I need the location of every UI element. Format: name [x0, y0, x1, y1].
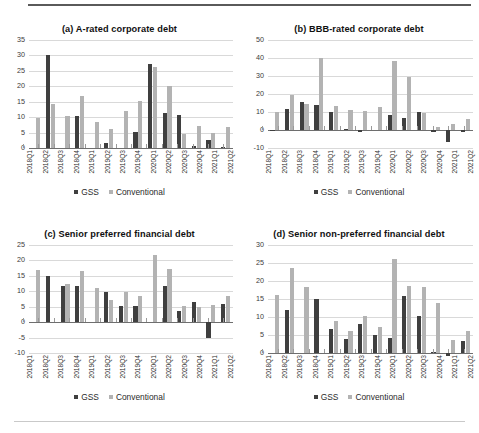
bar-gss[interactable] — [446, 130, 450, 142]
bar-conventional[interactable] — [138, 101, 142, 148]
x-tick-mark — [417, 126, 433, 130]
bar-group — [189, 245, 204, 353]
bar-gss[interactable] — [148, 64, 152, 148]
bar-gss[interactable] — [358, 130, 362, 132]
bar-gss[interactable] — [402, 296, 406, 353]
bar-gss[interactable] — [314, 299, 318, 353]
bar-conventional[interactable] — [290, 268, 294, 353]
bar-conventional[interactable] — [407, 77, 411, 130]
bar-gss[interactable] — [46, 276, 50, 322]
bar-conventional[interactable] — [80, 271, 84, 322]
bar-conventional[interactable] — [153, 255, 157, 323]
legend-item-gss[interactable]: GSS — [314, 393, 339, 401]
x-axis-label: 2020Q2 — [402, 355, 418, 378]
legend-swatch-gss-icon — [74, 190, 78, 194]
x-axis-label: 2019Q2 — [100, 150, 115, 173]
x-axis-label: 2018Q1 — [23, 355, 38, 378]
legend-label: Conventional — [116, 188, 165, 196]
x-axis-label-text: 2019Q3 — [120, 150, 127, 173]
bar-gss[interactable] — [417, 316, 421, 353]
bar-group — [385, 245, 400, 353]
x-axis-label: 2020Q3 — [417, 150, 433, 173]
x-tick-mark — [448, 349, 464, 353]
x-axis-label-text: 2019Q4 — [135, 150, 142, 173]
bar-conventional[interactable] — [36, 270, 40, 322]
x-axis-label-text: 2020Q2 — [166, 355, 173, 378]
bar-conventional[interactable] — [422, 287, 426, 353]
x-axis-label: 2020Q1 — [146, 150, 161, 173]
x-axis-label-text: 2019Q2 — [105, 355, 112, 378]
bar-conventional[interactable] — [319, 58, 323, 130]
y-tick-label: 5 — [21, 129, 25, 136]
panel-a-tickmarks — [23, 144, 239, 148]
x-axis-label-text: 2021Q1 — [212, 355, 219, 378]
bar-conventional[interactable] — [407, 286, 411, 353]
x-tick-mark — [386, 349, 402, 353]
x-axis-label: 2018Q1 — [262, 150, 278, 173]
bar-conventional[interactable] — [153, 67, 157, 148]
legend-swatch-conv-icon — [348, 395, 352, 399]
bar-gss[interactable] — [46, 55, 50, 148]
legend-swatch-gss-icon — [314, 190, 318, 194]
x-axis-label-text: 2021Q2 — [468, 355, 475, 378]
bar-conventional[interactable] — [436, 303, 440, 353]
panel-c: (c) Senior preferred financial debt -10-… — [0, 217, 239, 422]
bar-conventional[interactable] — [363, 316, 367, 353]
x-axis-label-text: 2018Q2 — [282, 355, 289, 378]
x-tick-mark — [293, 349, 309, 353]
bar-conventional[interactable] — [392, 259, 396, 353]
x-tick-mark — [23, 318, 38, 322]
bar-gss[interactable] — [206, 322, 210, 337]
bar-group — [370, 40, 385, 148]
legend-item-gss[interactable]: GSS — [74, 393, 99, 401]
legend-item-conventional[interactable]: Conventional — [109, 393, 165, 401]
bar-gss[interactable] — [270, 130, 274, 131]
legend-item-conventional[interactable]: Conventional — [348, 393, 404, 401]
bar-gss[interactable] — [163, 286, 167, 322]
bar-conventional[interactable] — [80, 96, 84, 148]
bar-conventional[interactable] — [124, 111, 128, 148]
x-axis-label: 2018Q1 — [262, 355, 278, 378]
x-axis-label-text: 2018Q4 — [313, 150, 320, 173]
bar-gss[interactable] — [163, 113, 167, 148]
bar-conventional[interactable] — [290, 95, 294, 130]
bar-gss[interactable] — [431, 130, 435, 132]
bar-group — [73, 40, 88, 148]
bar-gss[interactable] — [75, 286, 79, 322]
x-axis-label: 2020Q1 — [386, 355, 402, 378]
bar-conventional[interactable] — [51, 104, 55, 148]
bar-group — [444, 40, 459, 148]
bar-conventional[interactable] — [95, 288, 99, 323]
bar-conventional[interactable] — [275, 295, 279, 353]
bar-conventional[interactable] — [167, 269, 171, 322]
x-tick-mark — [309, 349, 325, 353]
bar-group — [312, 40, 327, 148]
bar-conventional[interactable] — [304, 287, 308, 353]
bar-gss[interactable] — [285, 310, 289, 353]
x-axis-label: 2018Q1 — [23, 150, 38, 173]
x-axis-label: 2019Q1 — [324, 150, 340, 173]
legend-item-gss[interactable]: GSS — [314, 188, 339, 196]
panel-b: (b) BBB-rated corporate debt -1001020304… — [239, 12, 479, 217]
legend-item-conventional[interactable]: Conventional — [109, 188, 165, 196]
bar-conventional[interactable] — [167, 86, 171, 148]
legend-item-gss[interactable]: GSS — [74, 188, 99, 196]
x-axis-label-text: 2021Q1 — [212, 150, 219, 173]
bar-gss[interactable] — [61, 286, 65, 322]
bar-group — [400, 40, 415, 148]
x-tick-mark — [324, 126, 340, 130]
panel-b-y-axis: -1001020304050 — [245, 40, 267, 148]
y-tick-label: 10 — [256, 313, 264, 320]
bar-conventional[interactable] — [392, 61, 396, 130]
x-axis-label: 2018Q3 — [293, 150, 309, 173]
bar-conventional[interactable] — [65, 284, 69, 322]
x-tick-mark — [177, 318, 192, 322]
legend-item-conventional[interactable]: Conventional — [348, 188, 404, 196]
x-axis-label-text: 2018Q1 — [266, 355, 273, 378]
bar-group — [458, 245, 473, 353]
bar-group — [29, 40, 44, 148]
panel-a-x-labels: 2018Q12018Q22018Q32018Q42019Q12019Q22019… — [23, 150, 239, 173]
x-tick-mark — [69, 144, 84, 148]
bar-group — [356, 245, 371, 353]
bar-gss[interactable] — [461, 130, 465, 132]
